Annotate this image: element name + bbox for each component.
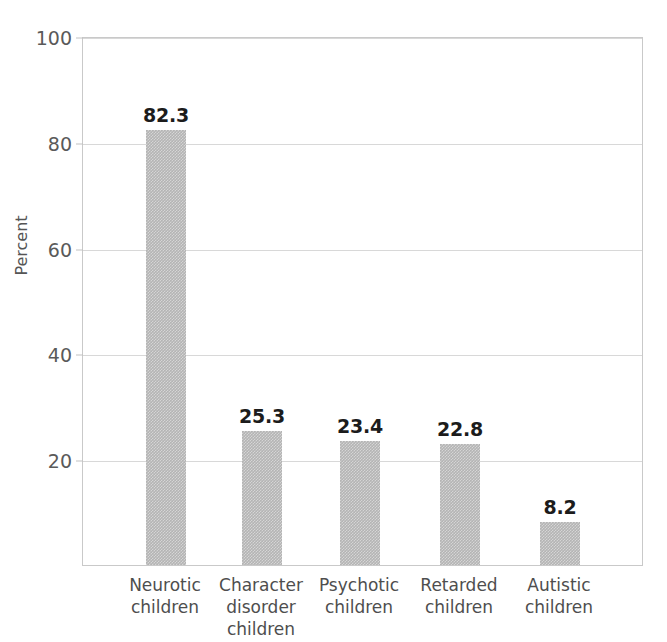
y-axis-tick-mark — [76, 355, 83, 356]
plot-area: 82.325.323.422.88.2 20406080100 — [82, 37, 643, 566]
y-axis-tick-mark — [76, 461, 83, 462]
y-axis-tick-mark — [76, 143, 83, 144]
bar — [340, 441, 380, 565]
y-axis-tick-label: 40 — [48, 344, 72, 366]
bar-value-label: 22.8 — [437, 418, 483, 440]
x-axis-category-label-line: children — [201, 618, 321, 640]
x-axis-category-label-line: Autistic — [499, 574, 619, 596]
x-axis-category-label-line: children — [499, 596, 619, 618]
bar-value-label: 25.3 — [239, 405, 285, 427]
gridline — [83, 38, 642, 39]
bar — [242, 431, 282, 565]
bar — [540, 522, 580, 565]
bar — [146, 130, 186, 565]
y-axis-tick-label: 60 — [48, 239, 72, 261]
bar — [440, 444, 480, 565]
bar-value-label: 23.4 — [337, 415, 383, 437]
bar-value-label: 82.3 — [143, 104, 189, 126]
y-axis-tick-label: 20 — [48, 450, 72, 472]
cut-off-caption-strip — [0, 0, 667, 14]
y-axis-tick-mark — [76, 38, 83, 39]
y-axis-tick-label: 80 — [48, 133, 72, 155]
x-axis-category-label: Autisticchildren — [499, 574, 619, 618]
bar-value-label: 8.2 — [543, 496, 576, 518]
bar-chart-figure: 82.325.323.422.88.2 20406080100 Percent … — [0, 0, 667, 642]
y-axis-tick-mark — [76, 249, 83, 250]
y-axis-title: Percent — [12, 186, 31, 306]
y-axis-tick-label: 100 — [36, 27, 72, 49]
